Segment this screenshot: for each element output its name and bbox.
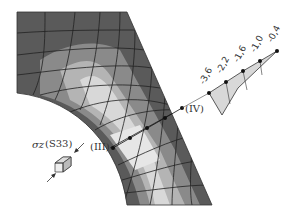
stress-name: (S33): [45, 138, 72, 149]
stress-symbol: σz: [32, 139, 44, 150]
stress-contour: [0, 0, 293, 220]
label-IV: (IV): [185, 103, 204, 114]
fea-mesh-plot: [0, 0, 293, 220]
label-III: (III): [90, 141, 110, 152]
fea-stress-figure: (III) (IV) σz (S33) -3,6 -2,2 -1,6 -1,0 …: [0, 0, 293, 220]
